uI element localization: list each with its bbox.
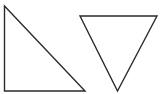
triangles-diagram [0, 0, 162, 94]
right-triangle-shape [5, 6, 86, 91]
inverted-triangle-shape [80, 16, 157, 91]
